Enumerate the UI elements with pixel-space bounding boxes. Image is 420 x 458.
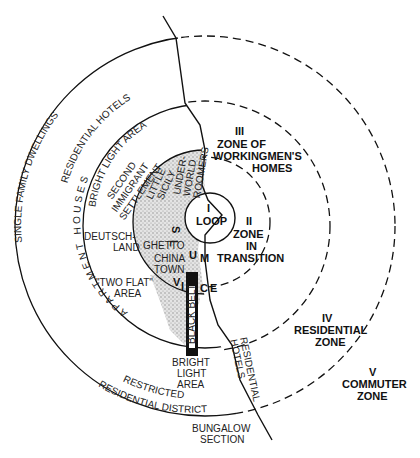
svg-text:WORKINGMEN'S: WORKINGMEN'S — [213, 150, 302, 162]
residential-hotels-right-label: RESIDENTIAL HOTELS — [228, 336, 262, 405]
vice-letter-v: V — [173, 276, 181, 288]
svg-text:AREA: AREA — [114, 288, 142, 299]
svg-text:DEUTSCH-: DEUTSCH- — [84, 231, 136, 242]
svg-text:ZONE: ZONE — [357, 390, 388, 402]
deutschland-label: DEUTSCH- LAND — [84, 231, 140, 253]
svg-text:ZONE: ZONE — [233, 228, 264, 240]
ghetto-label: GHETTO — [143, 240, 185, 251]
svg-text:I: I — [207, 202, 210, 214]
bungalow-label: BUNGALOW SECTION — [192, 423, 251, 445]
svg-text:TOWN: TOWN — [154, 264, 184, 275]
black-belt-label: BLACK BELT — [186, 284, 197, 344]
svg-text:LAND: LAND — [113, 242, 140, 253]
svg-text:HOMES: HOMES — [252, 162, 292, 174]
svg-text:RESIDENTIAL: RESIDENTIAL — [294, 324, 368, 336]
slum-letter-m: M — [200, 252, 209, 264]
svg-text:IV: IV — [322, 312, 333, 324]
svg-text:IN: IN — [246, 240, 257, 252]
slum-letter-s: S — [170, 226, 182, 233]
svg-text:ZONE OF: ZONE OF — [217, 138, 266, 150]
zone-v-label: V COMMUTER ZONE — [342, 366, 407, 402]
vice-letter-c: C — [200, 282, 208, 294]
svg-text:II: II — [246, 215, 252, 227]
svg-text:CHINA: CHINA — [154, 253, 185, 264]
svg-text:SECTION: SECTION — [200, 434, 244, 445]
vice-letter-e: E — [210, 282, 217, 294]
svg-text:III: III — [235, 125, 244, 137]
bright-light-bottom-label: BRIGHT LIGHT AREA — [172, 357, 210, 390]
svg-text:LIGHT: LIGHT — [177, 368, 206, 379]
vice-letter-i: I — [181, 280, 184, 292]
svg-text:AREA: AREA — [177, 379, 205, 390]
chinatown-label: CHINA TOWN — [154, 253, 185, 275]
svg-text:"TWO FLAT": "TWO FLAT" — [96, 277, 153, 288]
slum-letter-u: U — [189, 249, 197, 261]
concentric-zone-diagram: BLACK BELT SINGLE FAMILY DWELLINGS RESID… — [0, 0, 420, 458]
svg-text:ZONE: ZONE — [315, 336, 346, 348]
zone-iv-label: IV RESIDENTIAL ZONE — [294, 312, 368, 348]
svg-text:SINGLE FAMILY DWELLINGS: SINGLE FAMILY DWELLINGS — [12, 109, 60, 243]
svg-text:TRANSITION: TRANSITION — [217, 252, 284, 264]
single-family-label: SINGLE FAMILY DWELLINGS — [12, 109, 60, 243]
svg-text:V: V — [369, 366, 377, 378]
svg-text:BUNGALOW: BUNGALOW — [192, 423, 251, 434]
svg-text:BRIGHT: BRIGHT — [172, 357, 210, 368]
svg-text:COMMUTER: COMMUTER — [342, 378, 407, 390]
svg-text:LOOP: LOOP — [196, 215, 227, 227]
